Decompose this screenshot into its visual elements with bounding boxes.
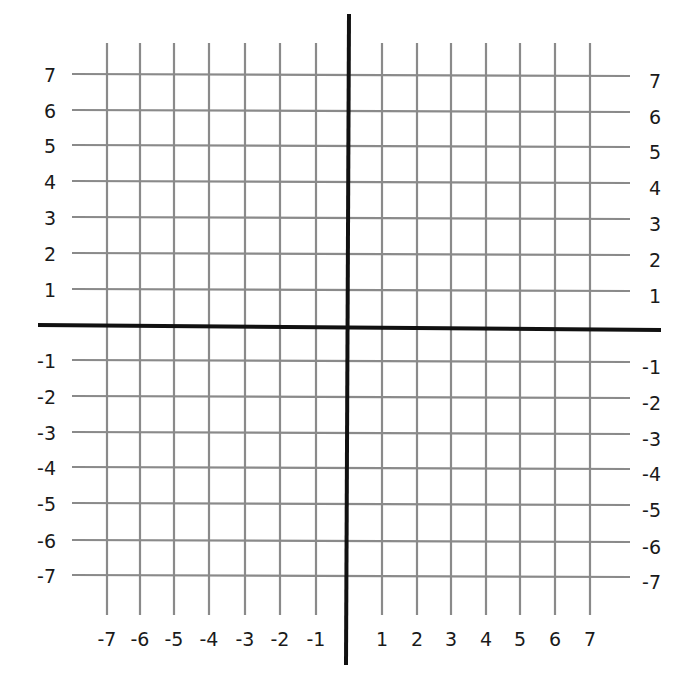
y-tick-label-right: 2	[649, 249, 661, 271]
y-tick-label-left: 2	[44, 243, 56, 265]
y-tick-label-left: 1	[44, 279, 56, 301]
y-tick-label-right: 6	[649, 106, 661, 128]
x-tick-label: -4	[200, 628, 219, 650]
x-tick-label: -7	[98, 628, 117, 650]
x-tick-label: -2	[271, 628, 290, 650]
y-tick-label-left: -2	[37, 386, 56, 408]
y-tick-label-right: 4	[649, 177, 661, 199]
y-tick-label-right: -5	[642, 499, 661, 521]
y-tick-label-left: 3	[44, 207, 56, 229]
y-tick-label-right: -6	[642, 536, 661, 558]
horizontal-gridline	[72, 396, 630, 398]
y-tick-label-right: 7	[649, 70, 661, 92]
x-tick-label: 1	[376, 628, 388, 650]
x-tick-label: 7	[584, 628, 596, 650]
x-tick-label: -1	[307, 628, 326, 650]
y-tick-label-left: 6	[44, 100, 56, 122]
horizontal-gridline	[72, 253, 630, 255]
y-tick-label-right: 5	[649, 141, 661, 163]
x-tick-label: -5	[165, 628, 184, 650]
horizontal-gridline	[72, 145, 630, 147]
y-tick-label-left: -7	[37, 565, 56, 587]
coordinate-plane: -7-6-5-4-3-2-11234567 7654321-1-2-3-4-5-…	[0, 0, 686, 683]
y-tick-label-right: -7	[642, 571, 661, 593]
horizontal-gridline	[72, 181, 630, 183]
horizontal-gridline	[72, 575, 630, 577]
x-tick-label: 6	[549, 628, 561, 650]
y-tick-label-right: 3	[649, 213, 661, 235]
x-tick-label: 3	[445, 628, 457, 650]
horizontal-gridline	[72, 360, 630, 362]
y-tick-label-left: 7	[44, 64, 56, 86]
horizontal-gridline	[72, 74, 630, 76]
x-tick-label: 4	[480, 628, 492, 650]
y-tick-label-left: -5	[37, 493, 56, 515]
y-tick-label-right: -3	[642, 428, 661, 450]
horizontal-gridline	[72, 110, 630, 112]
x-tick-label: -6	[131, 628, 150, 650]
y-tick-label-right: -1	[642, 356, 661, 378]
y-tick-label-left: -1	[37, 350, 56, 372]
x-tick-label: 2	[411, 628, 423, 650]
horizontal-gridline	[72, 467, 630, 469]
y-tick-label-left: 5	[44, 135, 56, 157]
x-tick-label: 5	[514, 628, 526, 650]
horizontal-gridline	[72, 217, 630, 219]
horizontal-gridline	[72, 289, 630, 291]
y-tick-label-left: -6	[37, 530, 56, 552]
y-tick-label-left: -4	[37, 457, 56, 479]
y-tick-label-left: 4	[44, 171, 56, 193]
y-tick-label-left: -3	[37, 422, 56, 444]
y-tick-label-right: 1	[649, 285, 661, 307]
y-tick-label-right: -2	[642, 392, 661, 414]
horizontal-gridline	[72, 432, 630, 434]
y-tick-label-right: -4	[642, 463, 661, 485]
horizontal-gridline	[72, 503, 630, 505]
horizontal-gridline	[72, 540, 630, 542]
x-tick-label: -3	[236, 628, 255, 650]
